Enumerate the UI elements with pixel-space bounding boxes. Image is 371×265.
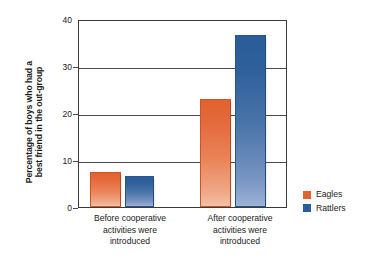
bar-chart-figure: Percentage of boys who had a best friend… bbox=[0, 0, 371, 265]
bar-eagles-after bbox=[200, 99, 231, 207]
bar-rattlers-after bbox=[235, 35, 266, 207]
legend-label-eagles: Eagles bbox=[316, 190, 342, 199]
plot-area bbox=[78, 20, 287, 208]
category-label-after-line-2: activities were bbox=[175, 225, 305, 237]
category-label-after-line-1: After cooperative bbox=[175, 213, 305, 225]
y-tick-mark-0 bbox=[73, 208, 78, 209]
bar-eagles-before bbox=[90, 172, 121, 207]
legend-item-eagles: Eagles bbox=[303, 190, 346, 199]
y-tick-label-30: 30 bbox=[32, 63, 72, 72]
legend-swatch-icon-rattlers bbox=[303, 204, 311, 212]
legend-label-rattlers: Rattlers bbox=[316, 204, 346, 213]
legend-item-rattlers: Rattlers bbox=[303, 204, 346, 213]
y-tick-label-0: 0 bbox=[32, 204, 72, 213]
legend-swatch-icon-eagles bbox=[303, 191, 311, 199]
bar-rattlers-before bbox=[125, 176, 154, 207]
category-label-after-line-3: introduced bbox=[175, 236, 305, 248]
y-tick-label-40: 40 bbox=[32, 16, 72, 25]
y-tick-label-10: 10 bbox=[32, 157, 72, 166]
y-axis-title: Percentage of boys who had a best friend… bbox=[19, 27, 49, 217]
category-label-after: After cooperative activities were introd… bbox=[175, 213, 305, 248]
legend: Eagles Rattlers bbox=[303, 190, 346, 213]
y-tick-label-20: 20 bbox=[32, 110, 72, 119]
